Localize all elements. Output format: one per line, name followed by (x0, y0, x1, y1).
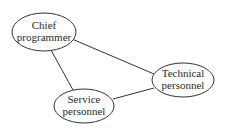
node-technical-personnel: Technical personnel (152, 63, 214, 97)
node-label-line2: personnel (162, 79, 205, 91)
edge-chief-service (51, 50, 73, 90)
edge-service-technical (113, 88, 154, 99)
node-label-line1: Chief (32, 19, 57, 31)
communication-diagram: Chief programmer Technical personnel Ser… (0, 0, 225, 130)
node-chief-programmer: Chief programmer (12, 13, 76, 51)
node-label-line1: Technical (162, 67, 205, 79)
edge-chief-technical (72, 39, 154, 74)
node-label-line2: programmer (17, 31, 72, 43)
node-label-line2: personnel (63, 105, 106, 117)
node-service-personnel: Service personnel (54, 89, 114, 123)
node-label-line1: Service (68, 93, 101, 105)
